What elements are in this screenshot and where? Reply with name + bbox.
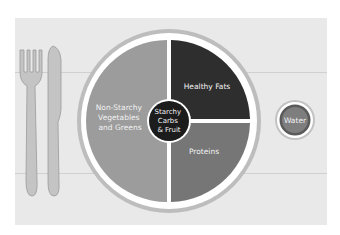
plate-diagram: Non-Starchy Vegetables and Greens Health… xyxy=(0,0,340,235)
plate: Non-Starchy Vegetables and Greens Health… xyxy=(77,29,261,213)
knife-icon xyxy=(48,46,61,196)
label-water: Water xyxy=(284,116,307,125)
label-non-starchy: Non-Starchy Vegetables and Greens xyxy=(96,103,145,132)
water-glass: Water xyxy=(275,100,315,140)
label-starchy-carbs: Starchy Carbs & Fruit xyxy=(155,108,184,134)
label-proteins: Proteins xyxy=(189,147,219,156)
fork-icon xyxy=(20,50,42,196)
label-healthy-fats: Healthy Fats xyxy=(184,82,231,91)
